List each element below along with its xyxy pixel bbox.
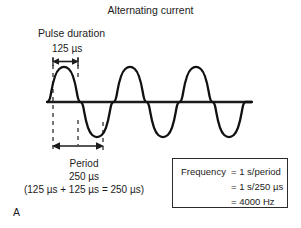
figure-alternating-current: Alternating current Pulse duration 125 µ…: [0, 0, 301, 228]
frequency-line-1: = 1 s/period: [231, 166, 281, 177]
period-arrow: [52, 142, 104, 150]
panel-letter: A: [13, 207, 20, 218]
period-math: (125 µs + 125 µs = 250 µs): [0, 183, 168, 196]
period-annotation-block: Period 250 µs (125 µs + 125 µs = 250 µs): [0, 157, 168, 196]
frequency-label: Frequency: [181, 166, 226, 177]
frequency-line-3: = 4000 Hz: [231, 196, 275, 207]
frequency-line-2: = 1 s/250 µs: [231, 181, 283, 192]
pulse-duration-arrow: [52, 58, 79, 66]
frequency-callout-box: Frequency = 1 s/period = 1 s/250 µs = 40…: [172, 158, 288, 208]
period-label: Period: [0, 157, 168, 170]
period-value: 250 µs: [0, 170, 168, 183]
